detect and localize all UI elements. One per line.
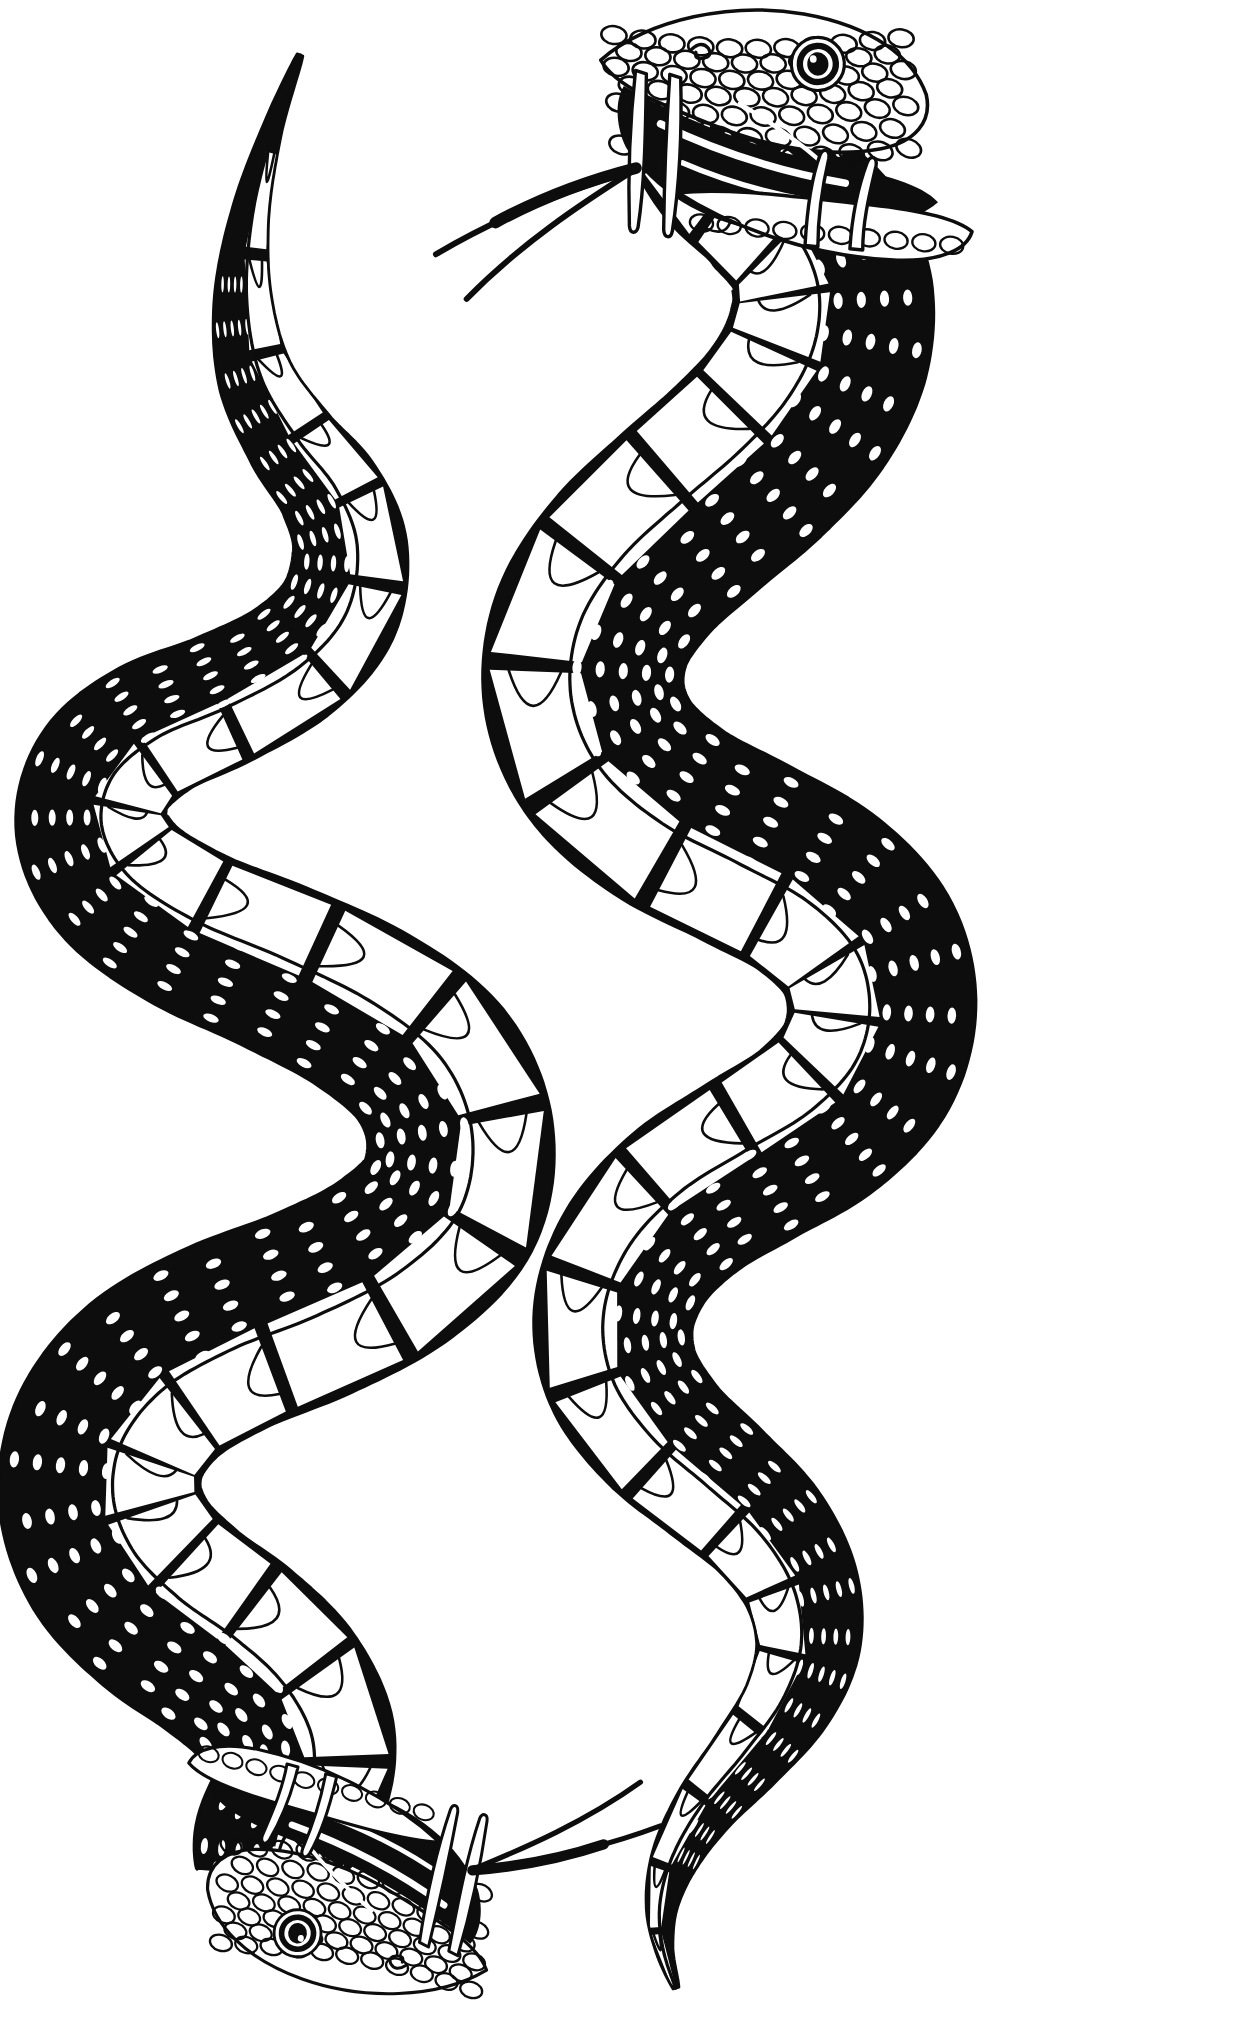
artboard [0,0,1252,2032]
snake-illustration [0,0,1252,2032]
